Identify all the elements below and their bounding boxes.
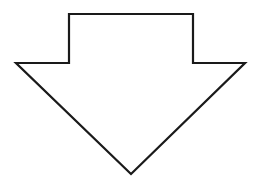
down-arrow-diagram — [0, 0, 259, 184]
